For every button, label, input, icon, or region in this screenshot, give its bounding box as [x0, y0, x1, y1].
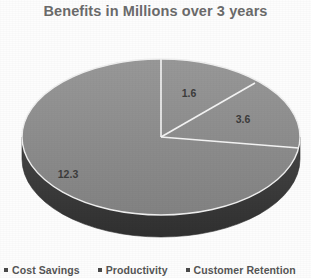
legend-marker-icon — [98, 268, 102, 272]
pie-svg: 1.6 3.6 12.3 — [0, 38, 311, 254]
chart-legend: Cost Savings Productivity Customer Reten… — [4, 262, 311, 278]
chart-title: Benefits in Millions over 3 years — [0, 3, 311, 19]
legend-item-customer-retention[interactable]: Customer Retention — [186, 264, 296, 276]
pie-chart-figure: Benefits in Millions over 3 years — [0, 0, 311, 278]
slice-value-customer-retention: 3.6 — [236, 113, 251, 125]
legend-label: Customer Retention — [194, 264, 296, 276]
legend-marker-icon — [4, 268, 8, 272]
slice-value-cost-savings: 12.3 — [58, 168, 79, 180]
legend-item-productivity[interactable]: Productivity — [98, 264, 168, 276]
slice-value-productivity: 1.6 — [182, 87, 197, 99]
pie-plot-area: 1.6 3.6 12.3 — [0, 38, 311, 254]
legend-marker-icon — [186, 268, 190, 272]
legend-label: Productivity — [106, 264, 168, 276]
pie-top-face — [22, 59, 300, 215]
legend-label: Cost Savings — [12, 264, 80, 276]
legend-item-cost-savings[interactable]: Cost Savings — [4, 264, 80, 276]
